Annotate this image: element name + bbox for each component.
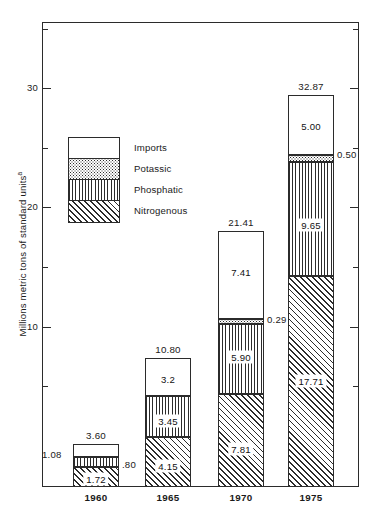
y-tick-minor-15 — [42, 267, 48, 268]
bar-1970-value-nitrogenous: 7.81 — [229, 444, 252, 455]
y-axis-title-footnote: a — [16, 172, 23, 176]
y-tick-label-30: 30 — [27, 82, 38, 93]
legend-label-phosphatic: Phosphatic — [134, 179, 183, 200]
y-tick-10 — [42, 327, 51, 328]
bar-1970-callout-potassic: 0.29 — [267, 314, 286, 325]
bar-1965-total: 10.80 — [133, 344, 203, 355]
bar-1960-segment-imports — [73, 444, 119, 457]
bar-1975-segment-phosphatic: 9.65 — [288, 162, 334, 276]
bar-1975-value-phosphatic: 9.65 — [299, 220, 322, 231]
bar-1965-segment-imports: 3.2 — [145, 358, 191, 396]
bar-1965-value-imports: 3.2 — [159, 374, 177, 385]
legend-label-nitrogenous: Nitrogenous — [134, 200, 187, 221]
legend-label-imports: Imports — [134, 137, 167, 158]
bar-1960-callout-phosphatic: .80 — [122, 459, 136, 470]
bar-1960-segment-nitrogenous: 1.72 — [73, 467, 119, 487]
bar-1975-segment-imports: 5.00 — [288, 95, 334, 155]
bar-1960-value-nitrogenous: 1.72 — [84, 474, 107, 485]
x-axis-label-1970: 1970 — [211, 492, 271, 503]
legend-swatch-imports-icon — [69, 138, 119, 159]
x-axis-label-1975: 1975 — [281, 492, 341, 503]
bar-1970-value-phosphatic: 5.90 — [229, 352, 252, 363]
bar-1965[interactable]: 3.2 3.45 4.15 — [145, 358, 191, 487]
y-axis-title: Millions metric tons of standard unitsa — [16, 154, 28, 354]
y-tick-minor-25 — [42, 148, 48, 149]
legend-swatch-potassic-icon — [69, 159, 119, 180]
legend-label-potassic: Potassic — [134, 158, 171, 179]
y-tick-label-10: 10 — [27, 321, 38, 332]
bar-1975-total: 32.87 — [276, 81, 346, 92]
x-axis-label-1960: 1960 — [66, 492, 126, 503]
bar-1965-value-phosphatic: 3.45 — [156, 416, 179, 427]
bar-1975-value-nitrogenous: 17.71 — [296, 376, 325, 387]
bar-1965-value-nitrogenous: 4.15 — [156, 461, 179, 472]
y-axis-title-text: Millions metric tons of standard units — [17, 176, 28, 337]
x-axis-label-1965: 1965 — [138, 492, 198, 503]
bar-1960[interactable]: 1.72 — [73, 444, 119, 487]
legend-swatch-phosphatic-icon — [69, 180, 119, 201]
y-tick-right-minor-15 — [353, 267, 359, 268]
y-tick-right-minor-35 — [353, 29, 359, 30]
bar-1975-segment-potassic — [288, 155, 334, 162]
bar-1975-value-imports: 5.00 — [299, 121, 322, 132]
y-tick-right-10 — [350, 327, 359, 328]
bar-1975-segment-nitrogenous: 17.71 — [288, 276, 334, 487]
bar-1960-callout-imports: 1.08 — [42, 449, 61, 460]
bar-1975-callout-potassic: 0.50 — [337, 149, 356, 160]
bar-1970-segment-nitrogenous: 7.81 — [218, 394, 264, 487]
y-tick-20 — [42, 207, 51, 208]
bar-1970-total: 21.41 — [206, 217, 276, 228]
y-tick-right-30 — [350, 88, 359, 89]
y-tick-right-minor-5 — [353, 386, 359, 387]
y-tick-minor-5 — [42, 386, 48, 387]
bar-1975[interactable]: 5.00 9.65 17.71 — [288, 95, 334, 487]
bar-1960-segment-phosphatic — [73, 457, 119, 467]
bar-1970-segment-imports: 7.41 — [218, 231, 264, 319]
bar-1970[interactable]: 7.41 5.90 7.81 — [218, 231, 264, 487]
bar-1965-segment-nitrogenous: 4.15 — [145, 437, 191, 487]
figure-container: 30 20 10 Millions metric tons of standar… — [0, 0, 382, 522]
bar-1965-segment-phosphatic: 3.45 — [145, 396, 191, 437]
legend-swatch-stack — [68, 137, 120, 223]
bar-1970-segment-phosphatic: 5.90 — [218, 324, 264, 394]
y-tick-label-20: 20 — [27, 201, 38, 212]
bar-1970-value-imports: 7.41 — [229, 267, 252, 278]
legend-swatch-nitrogenous-icon — [69, 201, 119, 222]
bar-1960-total: 3.60 — [61, 430, 131, 441]
y-tick-minor-35 — [42, 29, 48, 30]
y-tick-right-20 — [350, 207, 359, 208]
y-tick-30 — [42, 88, 51, 89]
